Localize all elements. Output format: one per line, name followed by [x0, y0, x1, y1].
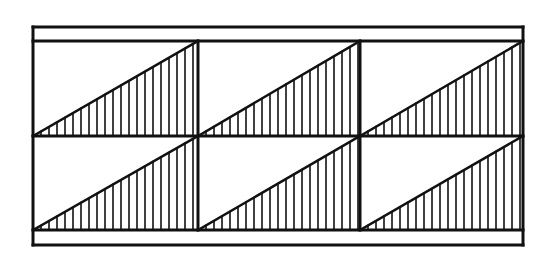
triangle-hypotenuse-r0-c0 [33, 41, 198, 136]
diagram-stage [0, 0, 555, 258]
triangle-hypotenuse-r1-c0 [33, 136, 198, 230]
triangle-hypotenuse-r0-c1 [198, 41, 360, 136]
triangle-hypotenuse-r1-c2 [360, 136, 523, 230]
hatched-triangle-grid-diagram [0, 0, 555, 258]
triangle-hypotenuse-r1-c1 [198, 136, 360, 230]
triangle-hypotenuse-r0-c2 [360, 41, 523, 136]
